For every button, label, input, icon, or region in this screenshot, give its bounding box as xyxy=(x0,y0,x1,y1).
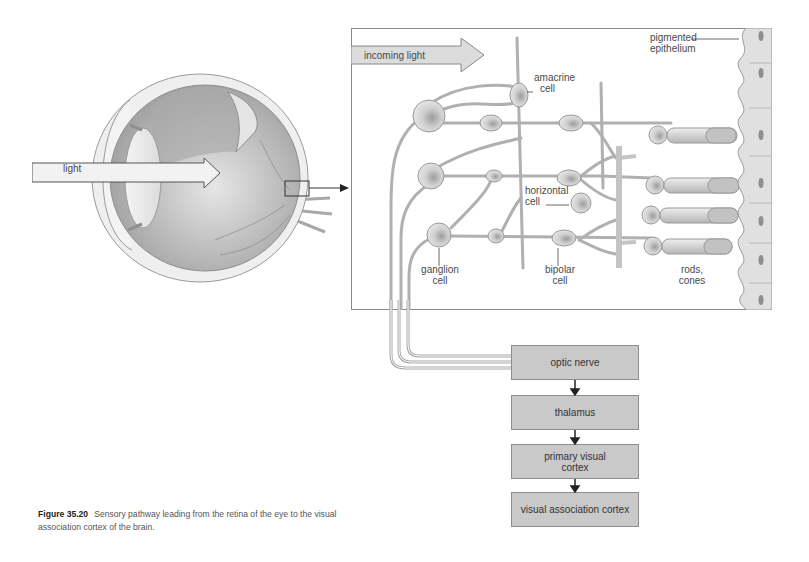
ganglion-cell-3 xyxy=(427,223,451,247)
amacrine-cell xyxy=(510,83,528,107)
eye-illustration xyxy=(0,0,350,300)
figure-number: Figure 35.20 xyxy=(38,509,88,519)
pigmented-epithelium-label: pigmented epithelium xyxy=(650,32,697,54)
flow-step-optic-nerve: optic nerve xyxy=(511,345,639,380)
pigmented-epithelium xyxy=(738,28,772,310)
light-label: light xyxy=(63,163,81,174)
light-arrow xyxy=(32,158,222,188)
eyeball-cross-section xyxy=(0,0,350,300)
ganglion-cell-1 xyxy=(413,100,445,132)
arrow-down-icon xyxy=(571,438,579,444)
bipolar-cell-3 xyxy=(552,230,576,246)
bipolar-cell-label: bipolar cell xyxy=(538,264,582,286)
horizontal-cell-label: horizontal cell xyxy=(525,185,568,207)
bipolar-cell-1 xyxy=(559,115,583,131)
amacrine-cell-label: amacrine cell xyxy=(534,72,575,94)
bipolar-cell-2 xyxy=(557,170,581,186)
optic-nerve-fibers xyxy=(385,300,515,375)
ganglion-cell-2 xyxy=(418,163,444,189)
photoreceptors xyxy=(642,126,739,255)
light-arrow-icon xyxy=(32,158,222,188)
horizontal-cell xyxy=(571,193,591,213)
flow-arrows xyxy=(560,378,590,498)
ganglion-cell-label: ganglion cell xyxy=(418,264,462,286)
rods-cones-label: rods, cones xyxy=(670,264,714,286)
figure-caption: Figure 35.20Sensory pathway leading from… xyxy=(38,508,358,533)
arrow-down-icon xyxy=(571,389,579,395)
arrow-down-icon xyxy=(571,486,579,492)
